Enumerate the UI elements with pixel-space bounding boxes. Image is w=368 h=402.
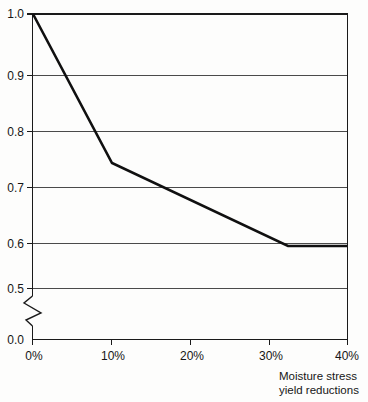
x-tickmarks [33,340,348,345]
y-tick-label-0-0: 0.0 [7,333,24,347]
y-tick-label-0-7: 0.7 [7,181,24,195]
x-axis-caption: Moisture stress yield reductions [279,370,359,396]
plot-background [32,13,348,340]
y-tick-label-0-6: 0.6 [7,237,24,251]
chart-screenshot: 1.0 0.9 0.8 0.7 0.6 0.5 0.0 0% 10% 20% 3… [0,0,368,402]
x-axis-caption-line2: yield reductions [279,384,359,396]
x-tick-label-30: 30% [259,349,283,363]
y-axis-labels: 1.0 0.9 0.8 0.7 0.6 0.5 0.0 [7,7,24,347]
line-chart: 1.0 0.9 0.8 0.7 0.6 0.5 0.0 0% 10% 20% 3… [0,0,368,402]
x-axis-labels: 0% 10% 20% 30% 40% [25,349,359,363]
x-tick-label-20: 20% [180,349,204,363]
y-tick-label-1-0: 1.0 [7,7,24,21]
x-axis-caption-line1: Moisture stress [279,370,357,382]
y-tick-label-0-5: 0.5 [7,282,24,296]
y-tick-label-0-8: 0.8 [7,125,24,139]
x-tick-label-10: 10% [101,349,125,363]
y-tickmarks [27,14,32,289]
x-tick-label-0: 0% [25,349,43,363]
x-tick-label-40: 40% [335,349,359,363]
y-tick-label-0-9: 0.9 [7,69,24,83]
